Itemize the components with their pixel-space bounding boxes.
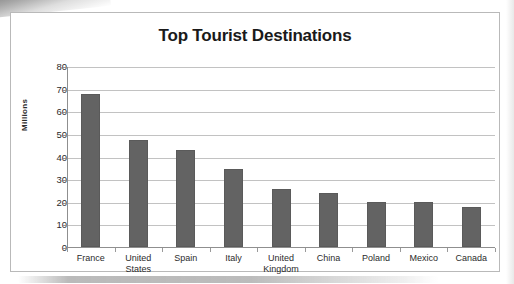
x-axis-tick xyxy=(257,248,258,252)
y-axis-tick xyxy=(63,225,67,226)
x-axis-tick xyxy=(210,248,211,252)
y-axis-tick-labels: 80706050403020100 xyxy=(33,67,67,249)
y-axis-tick-label: 70 xyxy=(33,85,67,95)
y-axis-tick xyxy=(63,90,67,91)
y-axis-tick xyxy=(63,203,67,204)
x-axis-tick xyxy=(495,248,496,252)
bar xyxy=(319,193,338,247)
x-axis-tick-label: China xyxy=(305,253,353,264)
x-axis-tick xyxy=(67,248,68,252)
y-axis-tick-label: 80 xyxy=(33,62,67,72)
bar xyxy=(224,169,243,247)
x-axis-tick xyxy=(447,248,448,252)
x-axis-tick xyxy=(352,248,353,252)
y-axis-tick-label: 10 xyxy=(33,220,67,230)
y-axis-tick-label: 40 xyxy=(33,153,67,163)
y-axis-tick-label: 20 xyxy=(33,198,67,208)
plot-area xyxy=(67,67,495,248)
page-scan-artifact-right-edge xyxy=(506,0,514,284)
y-axis-tick xyxy=(63,180,67,181)
chart-title: Top Tourist Destinations xyxy=(11,26,499,46)
x-axis-tick-label: United States xyxy=(115,253,163,275)
y-axis-tick-label: 50 xyxy=(33,130,67,140)
bar xyxy=(367,202,386,247)
page-scan-artifact-bottom xyxy=(18,276,438,283)
x-axis-tick xyxy=(305,248,306,252)
y-axis-tick-label: 60 xyxy=(33,107,67,117)
x-axis-tick-label: Spain xyxy=(162,253,210,264)
y-axis-tick xyxy=(63,135,67,136)
bar xyxy=(272,189,291,247)
x-axis-tick-label: Poland xyxy=(352,253,400,264)
y-axis-title: Millions xyxy=(20,99,29,131)
bar-series xyxy=(67,67,495,248)
y-axis-tick-label: 30 xyxy=(33,175,67,185)
y-axis-tick xyxy=(63,158,67,159)
x-axis-tick-label: Mexico xyxy=(400,253,448,264)
x-axis-tick-label: Canada xyxy=(447,253,495,264)
x-axis-tick xyxy=(400,248,401,252)
bar xyxy=(81,94,100,247)
y-axis-tick xyxy=(63,112,67,113)
x-axis-tick xyxy=(115,248,116,252)
x-axis-tick xyxy=(162,248,163,252)
bar xyxy=(462,207,481,247)
x-axis-tick-label: France xyxy=(67,253,115,264)
bar xyxy=(129,140,148,247)
x-axis-tick-label: Italy xyxy=(210,253,258,264)
bar xyxy=(176,150,195,247)
bar xyxy=(414,202,433,247)
x-axis-tick-label: United Kingdom xyxy=(257,253,305,275)
y-axis-tick xyxy=(63,67,67,68)
y-axis-tick-label: 0 xyxy=(33,243,67,253)
chart-container: Top Tourist Destinations Millions 807060… xyxy=(10,12,500,272)
